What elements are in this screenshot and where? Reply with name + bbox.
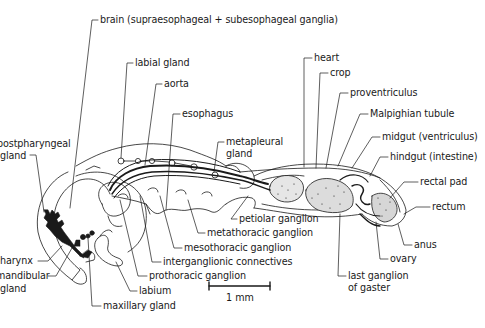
label-labial-gland: labial gland (135, 57, 190, 68)
label-rectum: rectum (432, 201, 466, 212)
mouthparts (72, 230, 123, 284)
label-crop: crop (330, 67, 351, 78)
thoracic-ganglia (118, 188, 212, 198)
label-labium: labium (139, 285, 171, 296)
label-postpharyngeal-gland-line2: gland (0, 150, 26, 161)
label-petiolar-ganglion: petiolar ganglion (239, 213, 319, 224)
label-metapleural-gland-line2: gland (226, 148, 252, 159)
label-malpighian-tubule: Malpighian tubule (370, 108, 454, 119)
label-mesothoracic-ganglion: mesothoracic ganglion (184, 242, 291, 253)
label-pharynx: pharynx (0, 255, 33, 266)
label-postpharyngeal-gland: postpharyngeal (0, 138, 71, 149)
label-midgut: midgut (ventriculus) (382, 131, 478, 142)
label-prothoracic-ganglion: prothoracic ganglion (149, 270, 246, 281)
label-ovary: ovary (390, 253, 417, 264)
label-aorta: aorta (164, 78, 189, 89)
label-last-ganglion: last ganglion (348, 270, 408, 281)
postpharyngeal-gland-shape (44, 210, 92, 258)
label-hindgut: hindgut (intestine) (390, 151, 477, 162)
label-mandibular-gland: mandibular (0, 270, 50, 281)
label-proventriculus: proventriculus (350, 87, 417, 98)
ant-anatomy-diagram: brain (supraesophageal + subesophageal g… (0, 0, 485, 328)
label-last-ganglion-line2: of gaster (348, 282, 390, 293)
label-metapleural-gland: metapleural (226, 136, 283, 147)
label-rectal-pad: rectal pad (420, 176, 467, 187)
scale-bar-label: 1 mm (226, 292, 254, 303)
scale-bar (209, 282, 270, 290)
label-mandibular-gland-line2: gland (0, 283, 26, 294)
label-brain: brain (supraesophageal + subesophageal g… (100, 14, 338, 25)
label-metathoracic-ganglion: metathoracic ganglion (207, 227, 313, 238)
label-heart: heart (314, 52, 339, 63)
label-esophagus: esophagus (182, 108, 233, 119)
label-anus: anus (414, 239, 437, 250)
label-maxillary-gland: maxillary gland (103, 300, 176, 311)
label-interganglionic-connectives: interganglionic connectives (163, 256, 292, 267)
